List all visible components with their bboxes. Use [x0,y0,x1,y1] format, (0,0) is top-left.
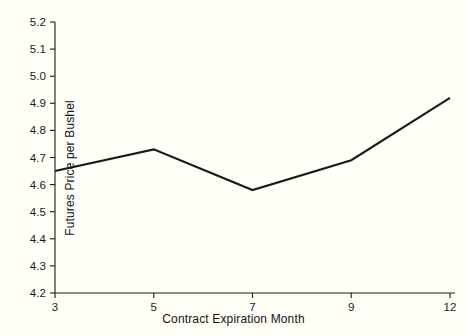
x-axis-title: Contract Expiration Month [0,312,467,326]
y-tick-label: 4.3 [30,260,46,272]
futures-price-line-chart: 5.25.15.04.94.84.74.64.54.44.34.2 357912… [0,0,467,336]
y-tick-label: 4.8 [30,124,46,136]
y-tick-label: 4.4 [30,233,46,245]
y-tick-label: 4.2 [30,287,46,299]
y-axis-ticks [50,22,55,293]
y-tick-label: 4.6 [30,179,46,191]
axes [50,22,455,298]
y-tick-label: 4.7 [30,152,46,164]
y-tick-label: 5.0 [30,70,46,82]
y-tick-label: 5.2 [30,16,46,28]
y-tick-label: 4.5 [30,206,46,218]
y-axis-title: Futures Price per Bushel [63,100,77,236]
x-axis-ticks [55,293,450,298]
y-tick-label: 4.9 [30,97,46,109]
data-series-line [55,98,450,190]
y-tick-label: 5.1 [30,43,46,55]
